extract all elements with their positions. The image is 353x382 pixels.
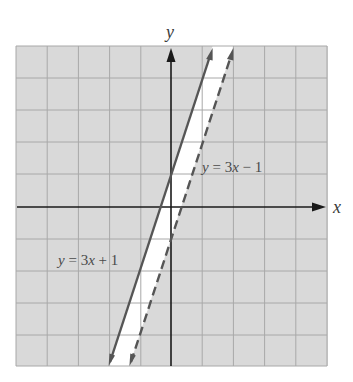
inequality-graph: y x y = 3x − 1 y = 3x + 1	[0, 0, 353, 382]
y-axis-label: y	[164, 22, 174, 42]
eq-label-dashed: y = 3x − 1	[200, 159, 262, 175]
x-axis-label: x	[332, 197, 341, 217]
eq-label-solid: y = 3x + 1	[56, 252, 118, 268]
